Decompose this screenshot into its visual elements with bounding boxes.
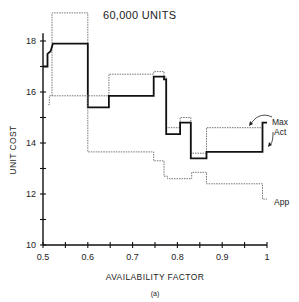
y-tick-label: 16 <box>26 87 36 97</box>
legend-label-act: Act <box>274 127 287 137</box>
x-tick-label: 0.8 <box>171 252 184 262</box>
y-tick-label: 10 <box>26 240 36 250</box>
series-group <box>43 13 267 199</box>
y-tick-label: 18 <box>26 36 36 46</box>
legend-label-app: App <box>274 197 289 207</box>
y-axis-label: UNIT COST <box>8 125 18 174</box>
series-act-line <box>43 44 267 159</box>
x-tick-label: 0.9 <box>216 252 229 262</box>
arrow-to-max-icon <box>251 115 272 124</box>
x-tick-label: 1 <box>264 252 269 262</box>
x-tick-label: 0.6 <box>82 252 95 262</box>
arrow-to-act-icon <box>270 132 273 145</box>
x-tick-label: 0.7 <box>126 252 139 262</box>
series-app-line <box>48 96 267 199</box>
series-max-line <box>52 13 263 153</box>
y-tick-label: 12 <box>26 189 36 199</box>
x-tick-label: 0.5 <box>37 252 50 262</box>
step-chart: 0.50.60.70.80.911012141618 60,000 UNITS … <box>0 0 299 302</box>
axes: 0.50.60.70.80.911012141618 <box>26 33 270 262</box>
x-axis-label: AVAILABILITY FACTOR <box>106 272 205 282</box>
chart-title: 60,000 UNITS <box>103 9 176 21</box>
y-tick-label: 14 <box>26 138 36 148</box>
caption: (a) <box>151 290 160 298</box>
legend-label-max: Max <box>272 117 289 127</box>
